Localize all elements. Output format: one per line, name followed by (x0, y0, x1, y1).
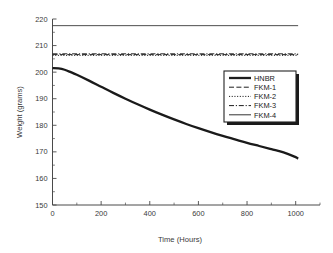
x-tick-label: 1000 (287, 209, 303, 218)
y-axis-ticks (53, 19, 57, 205)
x-tick-label: 800 (241, 209, 253, 218)
x-tick-label: 400 (144, 209, 156, 218)
legend-label-fkm-2: FKM-2 (254, 92, 276, 101)
chart-canvas: 150160170180190200210220 020040060080010… (0, 0, 333, 253)
legend-label-fkm-1: FKM-1 (254, 83, 276, 92)
legend-label-fkm-3: FKM-3 (254, 101, 276, 110)
x-axis-tick-labels: 02004006008001000 (50, 209, 303, 218)
y-axis-title: Weight (grams) (15, 86, 24, 138)
y-tick-label: 150 (35, 201, 47, 210)
x-tick-label: 0 (50, 209, 54, 218)
y-tick-label: 210 (35, 41, 47, 50)
y-tick-label: 160 (35, 174, 47, 183)
y-tick-label: 170 (35, 147, 47, 156)
y-tick-label: 190 (35, 94, 47, 103)
x-axis-ticks (53, 201, 321, 205)
legend-label-hnbr: HNBR (254, 74, 275, 83)
x-axis-title: Time (Hours) (158, 235, 202, 244)
y-tick-label: 180 (35, 121, 47, 130)
y-axis-tick-labels: 150160170180190200210220 (35, 15, 47, 210)
x-tick-label: 600 (192, 209, 204, 218)
weight-vs-time-chart: 150160170180190200210220 020040060080010… (0, 0, 333, 253)
y-tick-label: 220 (35, 15, 47, 24)
x-tick-label: 200 (95, 209, 107, 218)
y-tick-label: 200 (35, 68, 47, 77)
chart-legend: HNBRFKM-1FKM-2FKM-3FKM-4 (224, 71, 299, 125)
legend-label-fkm-4: FKM-4 (254, 111, 276, 120)
